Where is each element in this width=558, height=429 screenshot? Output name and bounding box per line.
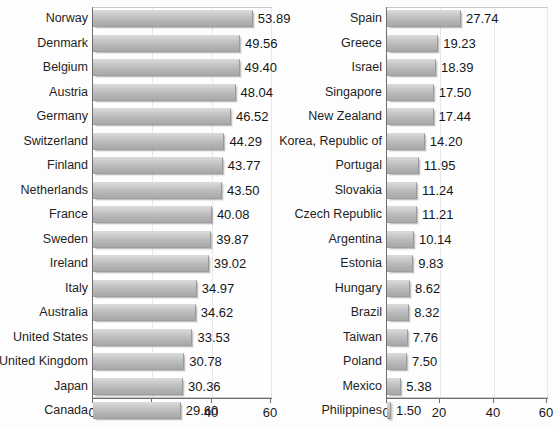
bar-value-label: 7.50 bbox=[412, 353, 437, 370]
category-label: Korea, Republic of bbox=[279, 133, 382, 150]
bar-row: Brazil8.32 bbox=[0, 304, 553, 328]
bar bbox=[387, 329, 408, 346]
bar-value-label: 1.50 bbox=[396, 402, 421, 419]
category-label: Argentina bbox=[328, 231, 382, 248]
category-label: Brazil bbox=[351, 304, 382, 321]
category-label: Slovakia bbox=[335, 182, 382, 199]
bar-row: Taiwan7.76 bbox=[0, 329, 553, 353]
bar-value-label: 11.21 bbox=[422, 206, 454, 223]
bar-row: Poland7.50 bbox=[0, 353, 553, 377]
bar-row: Spain27.74 bbox=[0, 10, 553, 34]
bar-row: Czech Republic11.21 bbox=[0, 206, 553, 230]
bar bbox=[387, 304, 409, 321]
category-label: New Zealand bbox=[308, 108, 382, 125]
bar-row: Korea, Republic of14.20 bbox=[0, 133, 553, 157]
bar-value-label: 11.24 bbox=[422, 182, 454, 199]
bar-row: New Zealand17.44 bbox=[0, 108, 553, 132]
bar bbox=[387, 402, 391, 419]
category-label: Czech Republic bbox=[294, 206, 382, 223]
bar-value-label: 14.20 bbox=[430, 133, 463, 150]
bar-row: Argentina10.14 bbox=[0, 231, 553, 255]
bar bbox=[387, 108, 434, 125]
bar-row: Portugal11.95 bbox=[0, 157, 553, 181]
category-label: Greece bbox=[341, 35, 382, 52]
bar bbox=[387, 353, 407, 370]
category-label: Poland bbox=[343, 353, 382, 370]
bar-row: Singapore17.50 bbox=[0, 84, 553, 108]
bar-row: Israel18.39 bbox=[0, 59, 553, 83]
bar bbox=[387, 182, 417, 199]
bar bbox=[387, 206, 417, 223]
category-label: Mexico bbox=[342, 378, 382, 395]
bar-value-label: 7.76 bbox=[413, 329, 438, 346]
bar-value-label: 19.23 bbox=[443, 35, 476, 52]
bar-value-label: 17.50 bbox=[439, 84, 472, 101]
bar bbox=[387, 255, 413, 272]
category-label: Singapore bbox=[325, 84, 382, 101]
bar-value-label: 8.62 bbox=[415, 280, 440, 297]
bar-value-label: 11.95 bbox=[424, 157, 456, 174]
bar bbox=[387, 35, 438, 52]
bar-row: Philippines1.50 bbox=[0, 402, 553, 426]
bar-row: Mexico5.38 bbox=[0, 378, 553, 402]
bar bbox=[387, 378, 401, 395]
bar-value-label: 27.74 bbox=[466, 10, 499, 27]
bar-value-label: 18.39 bbox=[441, 59, 474, 76]
bar bbox=[387, 10, 461, 27]
bar-row: Hungary8.62 bbox=[0, 280, 553, 304]
category-label: Hungary bbox=[335, 280, 382, 297]
bar-value-label: 17.44 bbox=[439, 108, 472, 125]
bar-value-label: 9.83 bbox=[418, 255, 443, 272]
bar-row: Slovakia11.24 bbox=[0, 182, 553, 206]
bar-value-label: 8.32 bbox=[414, 304, 439, 321]
category-label: Philippines bbox=[322, 402, 382, 419]
bar-value-label: 10.14 bbox=[419, 231, 452, 248]
bar bbox=[387, 59, 436, 76]
category-label: Spain bbox=[350, 10, 382, 27]
category-label: Estonia bbox=[340, 255, 382, 272]
bar bbox=[387, 231, 414, 248]
bar-row: Greece19.23 bbox=[0, 35, 553, 59]
bar bbox=[387, 84, 434, 101]
bar-row: Estonia9.83 bbox=[0, 255, 553, 279]
category-label: Taiwan bbox=[343, 329, 382, 346]
bar bbox=[387, 280, 410, 297]
bar bbox=[387, 157, 419, 174]
category-label: Portugal bbox=[335, 157, 382, 174]
bar-value-label: 5.38 bbox=[406, 378, 431, 395]
bar bbox=[387, 133, 425, 150]
category-label: Israel bbox=[351, 59, 382, 76]
